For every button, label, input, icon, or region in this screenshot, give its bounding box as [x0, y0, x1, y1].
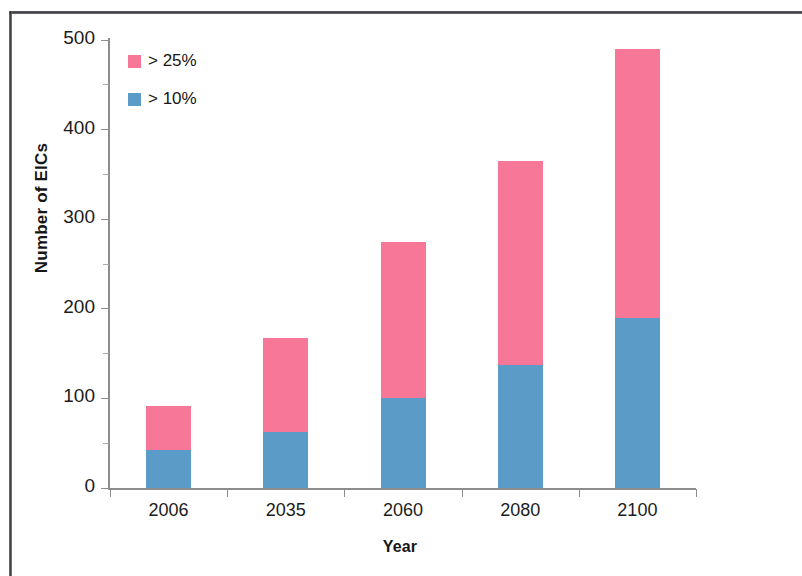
legend-item-gt10[interactable]: > 10%: [128, 86, 197, 112]
bar-2006[interactable]: [146, 406, 191, 488]
legend-swatch-icon: [128, 93, 141, 106]
y-tick-minor-150: [103, 353, 109, 354]
bar-segment-gt25-2080[interactable]: [498, 161, 543, 365]
y-tick-label-500: 500: [33, 27, 95, 49]
bar-segment-gt10-2006[interactable]: [146, 450, 191, 488]
y-tick-label-100: 100: [33, 385, 95, 407]
x-tick-label-2060: 2060: [343, 500, 463, 521]
x-tick-label-2100: 2100: [577, 500, 697, 521]
y-tick-minor-50: [103, 443, 109, 444]
x-tick-3: [462, 489, 463, 497]
bar-segment-gt25-2006[interactable]: [146, 406, 191, 451]
bar-segment-gt25-2060[interactable]: [381, 242, 426, 399]
y-tick-300: [101, 219, 109, 220]
bar-2035[interactable]: [263, 338, 308, 488]
x-tick-5: [696, 489, 697, 497]
x-axis-line: [108, 488, 696, 490]
chart-legend: > 25%> 10%: [128, 48, 197, 124]
x-tick-2: [344, 489, 345, 497]
y-tick-minor-250: [103, 264, 109, 265]
bar-2100[interactable]: [615, 49, 660, 488]
y-tick-label-400: 400: [33, 117, 95, 139]
x-tick-label-2035: 2035: [226, 500, 346, 521]
legend-item-gt25[interactable]: > 25%: [128, 48, 197, 74]
y-tick-200: [101, 308, 109, 309]
bar-segment-gt25-2035[interactable]: [263, 338, 308, 432]
legend-swatch-icon: [128, 55, 141, 68]
bar-segment-gt10-2035[interactable]: [263, 432, 308, 488]
stacked-bar-chart: Number of EICs Year 0100200300400500 200…: [0, 0, 802, 576]
x-tick-1: [227, 489, 228, 497]
y-tick-100: [101, 398, 109, 399]
legend-label: > 10%: [148, 89, 197, 109]
bar-segment-gt10-2080[interactable]: [498, 365, 543, 488]
bar-2080[interactable]: [498, 161, 543, 488]
bar-2060[interactable]: [381, 242, 426, 488]
y-tick-label-200: 200: [33, 296, 95, 318]
legend-label: > 25%: [148, 51, 197, 71]
x-tick-label-2080: 2080: [460, 500, 580, 521]
y-tick-400: [101, 129, 109, 130]
bar-segment-gt10-2100[interactable]: [615, 318, 660, 488]
y-tick-label-0: 0: [33, 475, 95, 497]
x-tick-label-2006: 2006: [109, 500, 229, 521]
y-tick-0: [101, 488, 109, 489]
bar-segment-gt10-2060[interactable]: [381, 398, 426, 488]
y-tick-minor-350: [103, 174, 109, 175]
y-tick-minor-450: [103, 84, 109, 85]
bar-segment-gt25-2100[interactable]: [615, 49, 660, 318]
y-tick-label-300: 300: [33, 206, 95, 228]
x-tick-4: [579, 489, 580, 497]
x-axis-title: Year: [100, 538, 700, 556]
x-tick-0: [110, 489, 111, 497]
y-tick-500: [101, 40, 109, 41]
